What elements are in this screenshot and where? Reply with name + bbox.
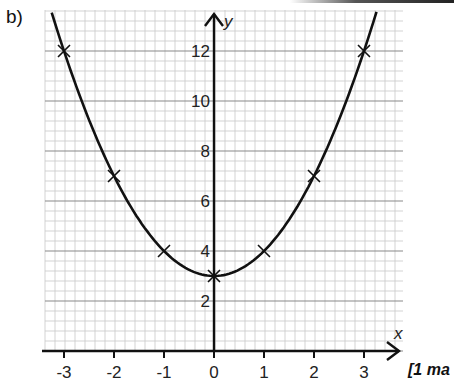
parabola-chart: xy-3-2-1012324681012 (0, 0, 454, 387)
x-axis-label: x (393, 324, 403, 343)
y-axis-label: y (223, 12, 234, 31)
x-tick-label: -2 (106, 363, 121, 382)
x-tick-label: 3 (359, 363, 368, 382)
x-tick-label: 1 (259, 363, 268, 382)
y-tick-label: 6 (201, 192, 210, 211)
x-tick-label: -1 (156, 363, 171, 382)
data-point-cross-icon (308, 170, 320, 182)
data-point-cross-icon (108, 170, 120, 182)
x-tick-label: 2 (309, 363, 318, 382)
y-tick-label: 4 (201, 242, 210, 261)
y-tick-label: 10 (191, 92, 210, 111)
x-tick-label: -3 (56, 363, 71, 382)
x-tick-label: 0 (209, 363, 218, 382)
y-tick-label: 12 (191, 42, 210, 61)
y-tick-label: 8 (201, 142, 210, 161)
y-tick-label: 2 (201, 292, 210, 311)
